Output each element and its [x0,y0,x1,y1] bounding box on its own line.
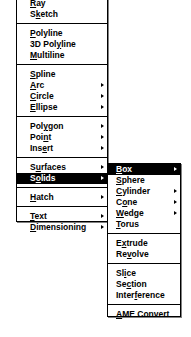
label-suffix: ext [35,211,47,221]
label-prefix: Poi [30,132,43,142]
draw-item-ray[interactable]: Ray [17,0,107,9]
menu-separator [108,263,180,264]
submenu-arrow-icon [101,135,104,139]
menu-separator [17,157,107,158]
accelerator-key: W [116,208,124,218]
menu-separator [17,23,107,24]
label-suffix: tion [131,279,147,289]
submenu-arrow-icon [101,83,104,87]
label-prefix: Re [116,249,127,259]
label-prefix: Pol [30,121,43,131]
solids-item-section[interactable]: Section [108,279,180,290]
draw-item-circle[interactable]: Circle [17,91,107,102]
draw-item-surfaces[interactable]: Surfaces [17,162,107,173]
submenu-arrow-icon [174,211,177,215]
label-prefix: Ins [30,143,42,153]
draw-item-spline[interactable]: Spline [17,69,107,80]
draw-item-3d-polyline[interactable]: 3D Polyline [17,39,107,50]
submenu-arrow-icon [101,195,104,199]
label-suffix: phere [122,175,145,185]
solids-item-wedge[interactable]: Wedge [108,208,180,219]
draw-item-sketch[interactable]: Sketch [17,9,107,20]
label-suffix: ox [122,164,132,174]
label-suffix: pline [36,69,56,79]
label-suffix: rt [47,143,53,153]
label-suffix: ME Convert [122,309,169,319]
submenu-arrow-icon [174,200,177,204]
submenu-arrow-icon [101,214,104,218]
draw-item-hatch[interactable]: Hatch [17,192,107,203]
draw-item-multiline[interactable]: Multiline [17,50,107,61]
menu-separator [108,304,180,305]
label-suffix: etch [40,9,57,19]
label-suffix: edge [124,208,144,218]
label-suffix: ircle [36,91,54,101]
label-suffix: ay [36,0,45,8]
label-suffix: gon [48,121,64,131]
label-suffix: ce [126,268,135,278]
label-suffix: ultiline [37,50,64,60]
label-suffix: olyline [36,28,63,38]
label-prefix: Sl [116,268,124,278]
menu-separator [17,206,107,207]
solids-submenu: BoxSphereCylinderConeWedgeTorusExtrudeRe… [107,163,181,317]
draw-item-text[interactable]: Text [17,211,107,222]
solids-item-ame-convert[interactable]: AME Convert [108,309,180,320]
submenu-arrow-icon [101,165,104,169]
label-suffix: ne [127,197,137,207]
label-suffix: t [48,132,51,142]
label-suffix: imensioning [36,222,86,232]
submenu-arrow-icon [174,167,177,171]
submenu-arrow-icon [101,105,104,109]
menu-separator [17,64,107,65]
label-suffix: line [61,39,76,49]
label-suffix: lids [41,173,56,183]
menu-separator [17,187,107,188]
label-prefix: Se [116,279,126,289]
draw-item-point[interactable]: Point [17,132,107,143]
draw-menu: RaySketchPolyline3D PolylineMultilineSpl… [16,0,108,222]
draw-item-insert[interactable]: Insert [17,143,107,154]
solids-item-cone[interactable]: Cone [108,197,180,208]
label-suffix: erence [137,290,164,300]
submenu-arrow-icon [101,225,104,229]
draw-item-arc[interactable]: Arc [17,80,107,91]
solids-item-sphere[interactable]: Sphere [108,175,180,186]
draw-item-polyline[interactable]: Polyline [17,28,107,39]
solids-item-interference[interactable]: Interference [108,290,180,301]
label-suffix: ylinder [122,186,150,196]
label-suffix: olve [132,249,149,259]
solids-item-torus[interactable]: Torus [108,219,180,230]
submenu-arrow-icon [101,94,104,98]
label-prefix: Inter [116,290,134,300]
solids-item-cylinder[interactable]: Cylinder [108,186,180,197]
solids-item-slice[interactable]: Slice [108,268,180,279]
draw-item-solids[interactable]: Solids [17,173,107,184]
submenu-arrow-icon [174,189,177,193]
solids-item-revolve[interactable]: Revolve [108,249,180,260]
solids-item-box[interactable]: Box [108,164,180,175]
label-suffix: orus [121,219,139,229]
menu-separator [17,116,107,117]
label-suffix: trude [126,238,147,248]
label-suffix: llipse [36,102,58,112]
label-prefix: 3D Pol [30,39,56,49]
menu-separator [108,233,180,234]
draw-item-ellipse[interactable]: Ellipse [17,102,107,113]
submenu-arrow-icon [101,146,104,150]
label-suffix: atch [36,192,53,202]
draw-item-polygon[interactable]: Polygon [17,121,107,132]
draw-item-dimensioning[interactable]: Dimensioning [17,222,107,233]
submenu-arrow-icon [101,124,104,128]
label-suffix: rfaces [41,162,66,172]
solids-item-extrude[interactable]: Extrude [108,238,180,249]
label-suffix: rc [36,80,44,90]
submenu-arrow-icon [101,176,104,180]
